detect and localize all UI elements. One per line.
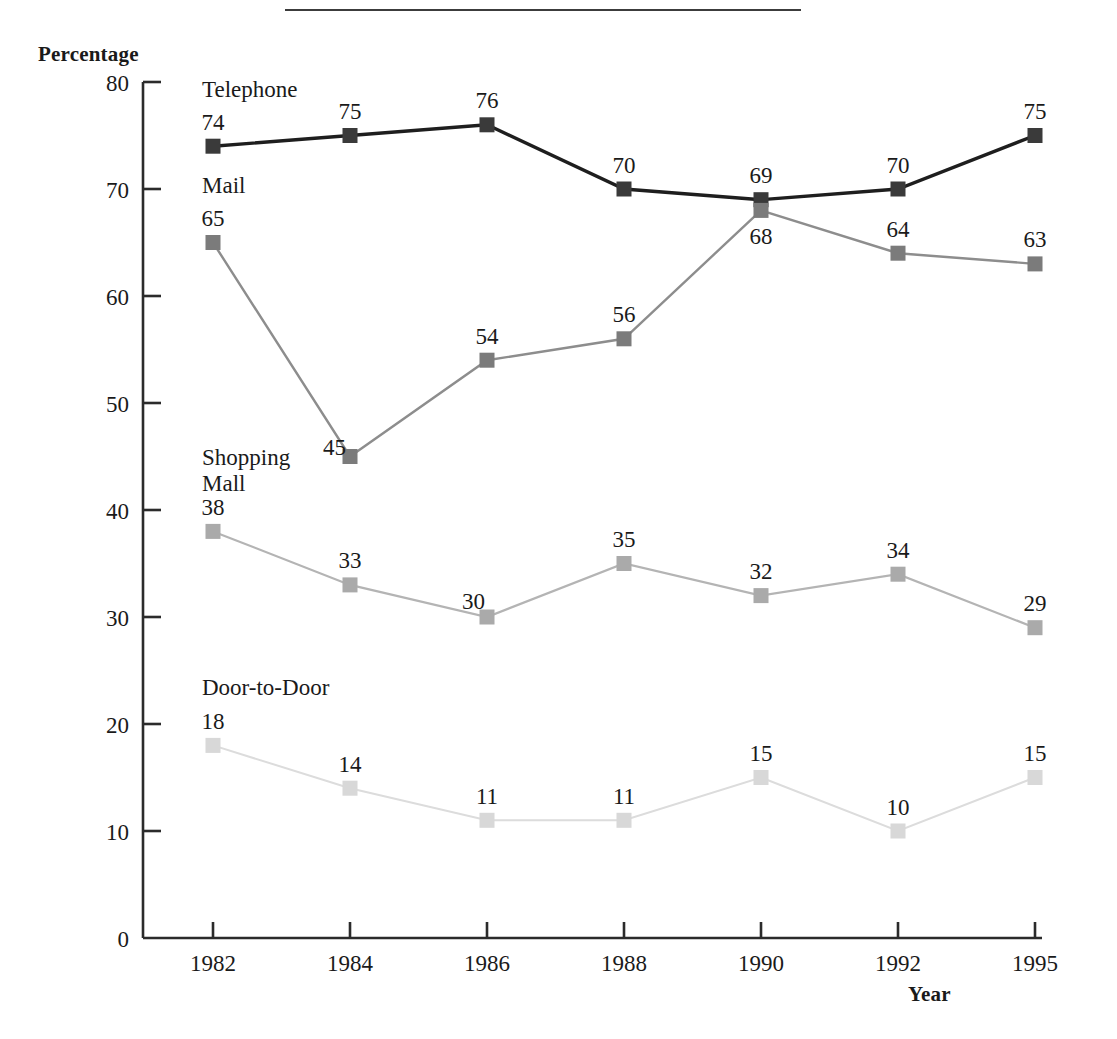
y-tick-label: 60 [106,285,129,310]
data-point-label: 32 [750,559,773,584]
data-point-label: 56 [613,302,636,327]
series-name-label: Mail [202,173,245,198]
x-tick-label: 1995 [1012,951,1058,976]
chart-series-group [206,117,1043,838]
series-marker [754,588,769,603]
data-point-label: 38 [202,495,225,520]
data-point-label: 45 [323,435,346,460]
line-chart-plot: 0102030405060708019821984198619881990199… [0,0,1117,1039]
data-point-label: 35 [613,527,636,552]
data-point-label: 30 [462,589,485,614]
series-marker [343,128,358,143]
series-marker [480,813,495,828]
series-marker [617,813,632,828]
data-point-label: 15 [750,741,773,766]
series-marker [480,117,495,132]
data-point-label: 68 [750,224,773,249]
data-point-label: 14 [339,752,363,777]
series-marker [891,567,906,582]
x-tick-label: 1988 [601,951,647,976]
tick-labels: 0102030405060708019821984198619881990199… [106,71,1058,976]
y-tick-label: 20 [106,713,129,738]
series-marker [891,824,906,839]
series-marker [206,139,221,154]
data-point-label: 64 [887,217,911,242]
y-tick-label: 30 [106,606,129,631]
series-marker [1028,770,1043,785]
data-point-label: 75 [339,99,362,124]
data-point-label: 63 [1024,227,1047,252]
y-tick-label: 80 [106,71,129,96]
series-marker [343,577,358,592]
y-tick-label: 10 [106,820,129,845]
series-name-label: Shopping [202,445,291,470]
data-point-label: 29 [1024,591,1047,616]
data-point-label: 34 [887,538,911,563]
data-point-label: 76 [476,88,499,113]
series-marker [1028,620,1043,635]
data-point-label: 70 [887,153,910,178]
data-point-label: 54 [476,324,500,349]
y-tick-label: 70 [106,178,129,203]
series-marker [343,781,358,796]
series-marker [617,556,632,571]
chart-canvas: Percentage Year 010203040506070801982198… [0,0,1117,1039]
series-marker [206,524,221,539]
data-point-label: 11 [613,784,635,809]
series-marker [480,353,495,368]
series-marker [1028,128,1043,143]
series-name-label: Door-to-Door [202,675,330,700]
data-point-label: 33 [339,548,362,573]
data-point-label: 69 [750,163,773,188]
series-marker [617,182,632,197]
data-point-label: 65 [202,206,225,231]
series-marker [754,770,769,785]
x-tick-label: 1984 [327,951,374,976]
y-tick-label: 0 [118,927,130,952]
x-tick-label: 1986 [464,951,510,976]
series-marker [891,246,906,261]
series-name-label: Mall [202,471,245,496]
y-tick-label: 40 [106,499,129,524]
series-marker [891,182,906,197]
data-point-label: 10 [887,795,910,820]
series-marker [206,235,221,250]
data-point-labels: 7475767069707565455456686463383330353234… [202,88,1047,819]
x-tick-label: 1982 [190,951,236,976]
data-point-label: 15 [1024,741,1047,766]
data-point-label: 18 [202,709,225,734]
series-marker [754,203,769,218]
series-marker [206,738,221,753]
data-point-label: 75 [1024,99,1047,124]
y-tick-label: 50 [106,392,129,417]
x-tick-label: 1992 [875,951,921,976]
x-tick-label: 1990 [738,951,784,976]
series-name-label: Telephone [202,77,297,102]
series-name-annotations: TelephoneMailShoppingMallDoor-to-Door [202,77,330,700]
series-marker [617,331,632,346]
data-point-label: 70 [613,153,636,178]
data-point-label: 11 [476,784,498,809]
data-point-label: 74 [202,110,226,135]
series-marker [1028,256,1043,271]
